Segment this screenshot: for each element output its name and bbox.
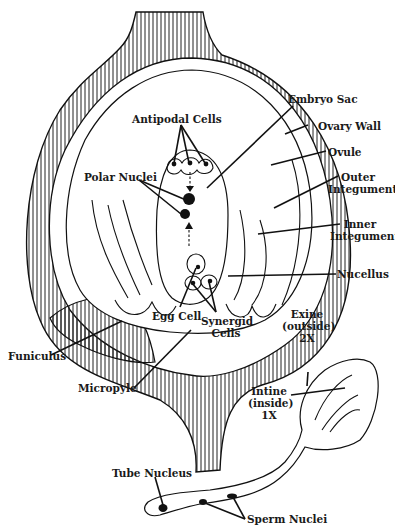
label-egg-cell: Egg Cell <box>152 310 201 322</box>
label-synergid-cells-line2: Cells <box>201 327 251 339</box>
label-polar-nuclei: Polar Nuclei <box>84 171 157 183</box>
label-ovule: Ovule <box>328 146 362 158</box>
diagram-illustration <box>0 0 395 531</box>
label-funiculus: Funiculus <box>8 350 66 362</box>
label-embryo-sac: Embryo Sac <box>288 93 358 105</box>
label-synergid-cells-line1: Synergid <box>201 315 251 327</box>
label-exine: Exine (outside) 2X <box>282 308 332 344</box>
label-outer-integument-line2: Integument <box>328 183 388 195</box>
label-nucellus: Nucellus <box>337 268 389 280</box>
label-intine-line1: Intine <box>248 385 290 397</box>
ovary-diagram: Antipodal Cells Polar Nuclei Embryo Sac … <box>0 0 395 531</box>
label-exine-line3: 2X <box>282 332 332 344</box>
label-inner-integument: Inner Integument <box>330 218 390 242</box>
label-antipodal-cells: Antipodal Cells <box>132 113 222 125</box>
label-ovary-wall: Ovary Wall <box>318 120 381 132</box>
label-inner-integument-line1: Inner <box>330 218 390 230</box>
label-exine-line1: Exine <box>282 308 332 320</box>
label-synergid-cells: Synergid Cells <box>201 315 251 339</box>
label-tube-nucleus: Tube Nucleus <box>112 467 192 479</box>
label-inner-integument-line2: Integument <box>330 230 390 242</box>
label-outer-integument-line1: Outer <box>328 171 388 183</box>
sperm-nucleus-2 <box>227 493 237 498</box>
polar-nucleus-lower <box>180 209 190 219</box>
label-sperm-nuclei: Sperm Nuclei <box>247 513 327 525</box>
tube-nucleus <box>159 504 168 512</box>
label-exine-line2: (outside) <box>282 320 332 332</box>
label-intine: Intine (inside) 1X <box>248 385 290 421</box>
label-intine-line3: 1X <box>248 409 290 421</box>
label-outer-integument: Outer Integument <box>328 171 388 195</box>
label-intine-line2: (inside) <box>248 397 290 409</box>
label-micropyle: Micropyle <box>78 382 137 394</box>
